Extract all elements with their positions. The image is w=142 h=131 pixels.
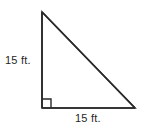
right-angle-marker-icon <box>42 99 51 108</box>
vertical-leg-length-label: 15 ft. <box>5 54 31 66</box>
horizontal-leg-length-label: 15 ft. <box>75 112 101 124</box>
triangle-hypotenuse <box>42 12 135 108</box>
geometry-figure: 15 ft. 15 ft. <box>0 0 142 131</box>
